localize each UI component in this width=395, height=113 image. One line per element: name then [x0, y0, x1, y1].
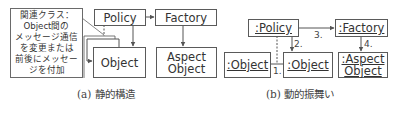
- object-label: Object: [101, 57, 138, 69]
- note-line: メッセージ通信: [11, 32, 82, 43]
- policy-instance: :Policy: [248, 19, 299, 37]
- step-4-label: 4.: [364, 39, 373, 49]
- policy-class: Policy: [94, 9, 146, 26]
- policy-label: Policy: [103, 12, 136, 24]
- factory-instance-label: :Factory: [339, 22, 385, 34]
- step-3-label: 3.: [314, 30, 323, 40]
- object-instance-left-label: :Object: [227, 59, 268, 71]
- factory-label: Factory: [165, 12, 207, 24]
- aspect-object-class: Aspect Object: [156, 47, 217, 78]
- aspect-object-instance-line2: Object: [344, 65, 381, 77]
- step-2-label: 2.: [294, 39, 303, 49]
- caption-a: (a) 静的構造: [77, 86, 135, 101]
- note-line: 関連クラス：: [11, 10, 82, 21]
- object-instance-center: :Object: [283, 52, 333, 78]
- caption-b: (b) 動的振舞い: [266, 86, 334, 101]
- diagram-figure: 関連クラス： Object間の メッセージ通信 を変更または 前後にメッセー ジ…: [0, 0, 395, 113]
- object-instance-center-label: :Object: [287, 59, 328, 71]
- aspect-object-label-line1: Aspect: [167, 51, 206, 63]
- policy-instance-label: :Policy: [255, 22, 292, 34]
- factory-class: Factory: [155, 9, 217, 26]
- factory-instance: :Factory: [335, 19, 388, 37]
- association-class-note: 関連クラス： Object間の メッセージ通信 を変更または 前後にメッセー ジ…: [10, 8, 83, 78]
- step-1-label: 1.: [273, 66, 282, 76]
- note-line: ジを付加: [11, 65, 82, 76]
- note-line: を変更または: [11, 43, 82, 54]
- note-line: Object間の: [11, 21, 82, 32]
- aspect-object-label-line2: Object: [168, 63, 205, 75]
- object-instance-left: :Object: [224, 52, 271, 78]
- aspect-object-instance: :Aspect Object: [338, 52, 388, 78]
- note-line: 前後にメッセー: [11, 54, 82, 65]
- object-class: Object: [93, 47, 146, 78]
